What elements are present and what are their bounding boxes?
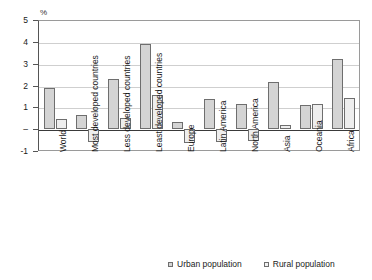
- y-axis-tick-mark: [33, 151, 38, 152]
- x-axis-tick-label: Most developed countries: [91, 55, 100, 152]
- bar: [172, 122, 183, 130]
- x-axis-tick-label: Africa: [347, 130, 356, 152]
- bar: [268, 82, 279, 129]
- y-axis-tick-mark: [33, 107, 38, 108]
- bar: [44, 88, 55, 129]
- y-axis-tick-label: 2: [2, 82, 28, 91]
- y-axis-tick-mark: [33, 20, 38, 21]
- x-axis-tick-label: Less developed countries: [123, 56, 132, 152]
- bar: [344, 98, 355, 130]
- y-axis-tick-label: 4: [2, 38, 28, 47]
- legend-label: Urban population: [177, 259, 242, 269]
- bar: [108, 79, 119, 129]
- bar: [204, 99, 215, 130]
- y-axis-tick-mark: [33, 64, 38, 65]
- bars-layer: [39, 20, 359, 151]
- bar: [140, 44, 151, 129]
- x-axis-category-labels: WorldMost developed countriesLess develo…: [39, 152, 359, 252]
- x-axis-tick-label: Latin America: [219, 101, 228, 153]
- y-axis-tick-label: 1: [2, 103, 28, 112]
- y-axis-unit-label: %: [40, 8, 47, 17]
- x-axis-tick-label: Oceania: [315, 120, 324, 152]
- bar: [76, 115, 87, 129]
- legend-swatch-icon: [168, 262, 173, 267]
- y-axis-tick-label: 3: [2, 60, 28, 69]
- x-axis-tick-label: World: [59, 130, 68, 152]
- bar: [56, 119, 67, 129]
- legend-item: Rural population: [264, 259, 335, 269]
- legend-swatch-icon: [264, 262, 269, 267]
- bar: [280, 125, 291, 129]
- x-axis-tick-label: Least developed countries: [155, 53, 164, 152]
- legend-label: Rural population: [273, 259, 335, 269]
- y-axis-tick-mark: [33, 42, 38, 43]
- y-axis-tick-label: 5: [2, 16, 28, 25]
- y-axis-tick-mark: [33, 86, 38, 87]
- y-axis-tick-label: –: [2, 125, 28, 134]
- bar: [332, 59, 343, 129]
- y-axis-tick-label: -1: [2, 147, 28, 156]
- x-axis-tick-label: Asia: [283, 135, 292, 152]
- bar-chart: % 54321–-1 WorldMost developed countries…: [0, 0, 372, 280]
- x-axis-tick-label: Europe: [187, 125, 196, 152]
- y-axis-tick-mark: [33, 129, 38, 130]
- legend-item: Urban population: [168, 259, 242, 269]
- chart-legend: Urban populationRural population: [168, 259, 335, 269]
- x-axis-tick-label: North America: [251, 98, 260, 152]
- bar: [236, 104, 247, 129]
- bar: [300, 105, 311, 129]
